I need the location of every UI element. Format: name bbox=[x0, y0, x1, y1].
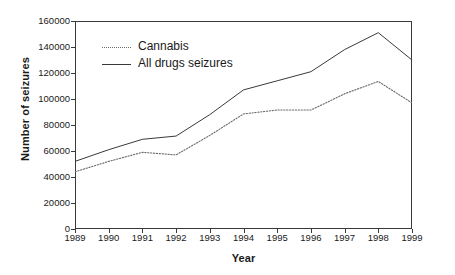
x-axis-title: Year bbox=[75, 252, 412, 264]
x-tick-mark bbox=[109, 229, 110, 233]
x-tick-mark bbox=[345, 229, 346, 233]
y-tick-label: 20000 bbox=[22, 198, 70, 208]
y-tick-label: 40000 bbox=[22, 172, 70, 182]
y-tick-label: 60000 bbox=[22, 146, 70, 156]
chart-legend: Cannabis All drugs seizures bbox=[100, 38, 233, 72]
x-tick-mark bbox=[142, 229, 143, 233]
y-tick-label: 140000 bbox=[22, 42, 70, 52]
legend-item-all-drugs-seizures: All drugs seizures bbox=[100, 55, 233, 72]
x-tick-label: 1999 bbox=[390, 233, 434, 243]
y-tick-label: 120000 bbox=[22, 68, 70, 78]
legend-swatch-dotted-icon bbox=[100, 42, 133, 52]
legend-item-cannabis: Cannabis bbox=[100, 38, 233, 55]
legend-label-all-drugs-seizures: All drugs seizures bbox=[138, 57, 233, 70]
y-tick-label: 100000 bbox=[22, 94, 70, 104]
y-axis-title: Number of seizures bbox=[19, 29, 31, 189]
x-tick-mark bbox=[311, 229, 312, 233]
line-chart: Number of seizures 020000400006000080000… bbox=[0, 0, 455, 275]
x-tick-mark bbox=[75, 229, 76, 233]
legend-swatch-solid-icon bbox=[100, 59, 133, 69]
x-tick-mark bbox=[244, 229, 245, 233]
x-tick-mark bbox=[277, 229, 278, 233]
legend-label-cannabis: Cannabis bbox=[138, 40, 189, 53]
x-tick-mark bbox=[176, 229, 177, 233]
x-tick-mark bbox=[378, 229, 379, 233]
y-tick-label: 160000 bbox=[22, 16, 70, 26]
x-tick-mark bbox=[412, 229, 413, 233]
y-tick-label: 80000 bbox=[22, 120, 70, 130]
x-tick-mark bbox=[210, 229, 211, 233]
series-line-cannabis bbox=[75, 81, 412, 171]
